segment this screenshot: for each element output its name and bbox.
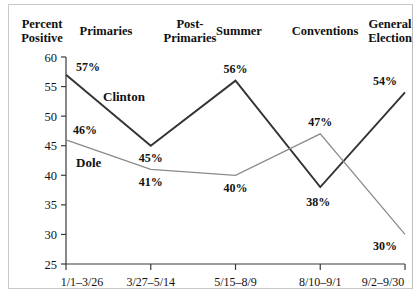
data-label-clinton-4: 54%: [373, 74, 397, 88]
data-label-clinton-3: 38%: [306, 195, 330, 209]
y-tick-label: 60: [45, 51, 58, 65]
y-axis-tick-labels: 2530354045505560: [45, 51, 58, 272]
x-tick-label: 9/2–9/30: [362, 275, 405, 289]
series-label-dole: Dole: [76, 155, 102, 170]
data-label-clinton-2: 56%: [224, 62, 248, 76]
y-tick-label: 40: [45, 169, 58, 183]
y-tick-label: 30: [45, 228, 58, 242]
x-axis-ticks: [66, 264, 405, 270]
y-axis-ticks: [61, 57, 66, 264]
x-axis-tick-labels: 1/1–3/263/27–5/145/15–8/98/10–9/19/2–9/3…: [61, 275, 405, 289]
series-label-clinton: Clinton: [103, 89, 146, 104]
data-label-dole-4: 30%: [373, 239, 397, 253]
line-chart: 2530354045505560 1/1–3/263/27–5/145/15–8…: [0, 0, 420, 292]
x-tick-label: 8/10–9/1: [299, 275, 342, 289]
chart-page: Percent Positive Primaries Post- Primari…: [0, 0, 420, 292]
data-label-dole-3: 47%: [308, 115, 332, 129]
data-label-dole-0: 46%: [73, 123, 97, 137]
y-tick-label: 45: [45, 139, 58, 153]
y-tick-label: 50: [45, 110, 58, 124]
y-tick-label: 55: [45, 80, 58, 94]
x-tick-label: 1/1–3/26: [61, 275, 104, 289]
x-tick-label: 5/15–8/9: [214, 275, 257, 289]
y-tick-label: 35: [45, 198, 58, 212]
data-label-dole-2: 40%: [224, 181, 248, 195]
data-label-dole-1: 41%: [139, 175, 163, 189]
x-tick-label: 3/27–5/14: [126, 275, 175, 289]
data-label-clinton-0: 57%: [76, 60, 100, 74]
data-label-clinton-1: 45%: [139, 151, 163, 165]
y-tick-label: 25: [45, 258, 58, 272]
